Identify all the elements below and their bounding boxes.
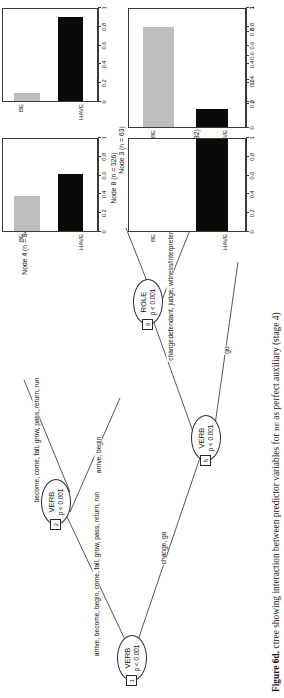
bar-be-node8 [14, 196, 39, 231]
bar-have-node4 [196, 139, 227, 231]
x-axis-node4: 0 0.2 0.4 0.6 0.8 1 [246, 138, 258, 232]
caption-text-1: ctree showing interaction between predic… [271, 431, 281, 648]
axis-label-be-node9: BE [150, 128, 156, 146]
axis-label-have-node8: HAVE [78, 232, 84, 250]
axis-line [98, 138, 99, 232]
bar-be-node7 [14, 93, 39, 101]
axis-label-be-node8: BE [18, 232, 24, 250]
axis-label-have-node4: HAVE [222, 232, 228, 250]
caption-text-2: as perfect auxiliary (stage 4) [271, 312, 281, 422]
xtick-08: 0.8 [249, 153, 255, 161]
xtick-1: 1 [101, 136, 107, 139]
terminal-title-node3: Node 3 (n = 63) [118, 125, 125, 174]
xtick-02: 0.2 [249, 100, 255, 108]
barplot-node8 [2, 138, 98, 232]
edge-label-root-right: change, go [160, 531, 167, 566]
caption-label: Figure 6d. [271, 651, 281, 692]
xtick-04: 0.4 [101, 191, 107, 199]
xtick-02: 0.2 [101, 209, 107, 217]
node-variable: VERB [47, 479, 56, 525]
edge-label-node2-right: become, come, fall, grow, pass, return, … [33, 377, 40, 504]
xtick-1: 1 [101, 6, 107, 9]
ctree-plot: 1 VERB p < 0.001 2 VERB p < 0.001 5 VERB… [0, 0, 268, 698]
xtick-0: 0 [101, 230, 107, 233]
axis-label-have-node7: HAVE [78, 102, 84, 120]
terminal-panel-node4: BE HAVE 0 0.2 0.4 0.6 [128, 138, 258, 250]
terminal-panel-node7: BE HAVE 0 0.2 0.4 0.6 [2, 8, 110, 120]
bar-have-node8 [58, 174, 83, 231]
inner-node-6[interactable]: 6 ROLE p < 0.001 [133, 279, 163, 325]
xtick-04: 0.4 [249, 76, 255, 84]
barplot-node9 [128, 8, 246, 128]
terminal-panel-node8: BE HAVE 0 0.2 0.4 0.6 [2, 138, 110, 250]
node-variable: ROLE [139, 279, 148, 325]
rotated-figure: 1 VERB p < 0.001 2 VERB p < 0.001 5 VERB… [0, 0, 284, 698]
xtick-04: 0.4 [249, 191, 255, 199]
xtick-0: 0 [249, 126, 255, 129]
axis-line [246, 138, 247, 232]
axis-line [246, 8, 247, 128]
bar-be-node9 [143, 27, 174, 127]
inner-node-1[interactable]: 1 VERB p < 0.001 [117, 635, 147, 681]
xtick-06: 0.6 [249, 172, 255, 180]
terminal-panel-node9: BE HAVE 0 0.2 0.4 0.6 0.8 1 [128, 8, 258, 146]
xtick-08: 0.8 [101, 23, 107, 31]
caption-smallcaps: be [271, 422, 281, 431]
xtick-08: 0.8 [101, 153, 107, 161]
figure-caption: Figure 6d. ctree showing interaction bet… [271, 6, 282, 692]
barplot-node4 [128, 138, 246, 232]
xtick-06: 0.6 [101, 172, 107, 180]
figure-page: 1 VERB p < 0.001 2 VERB p < 0.001 5 VERB… [0, 0, 284, 698]
axis-label-be-node4: BE [150, 232, 156, 250]
bar-have-node9 [196, 109, 227, 127]
xtick-0: 0 [249, 230, 255, 233]
edge-label-node5-right: go [223, 345, 230, 354]
node-pvalue: p < 0.001 [133, 635, 140, 681]
edge-label-root-left: arrive, become, begin, come, fall, grow,… [93, 491, 100, 658]
node-pvalue: p < 0.001 [207, 415, 214, 461]
x-axis-node9: 0 0.2 0.4 0.6 0.8 1 [246, 8, 258, 128]
bar-have-node7 [58, 17, 83, 101]
xtick-02: 0.2 [249, 209, 255, 217]
node-pvalue: p < 0.001 [149, 279, 156, 325]
inner-node-5[interactable]: 5 VERB p < 0.001 [191, 415, 221, 461]
axis-label-have-node9: HAVE [222, 128, 228, 146]
x-axis-node7: 0 0.2 0.4 0.6 0.8 1 [98, 8, 110, 102]
xtick-0: 0 [101, 100, 107, 103]
xtick-06: 0.6 [101, 42, 107, 50]
edge-label-node5-left: change [167, 338, 174, 362]
node-variable: VERB [123, 635, 132, 681]
xtick-1: 1 [249, 6, 255, 9]
inner-node-2[interactable]: 2 VERB p < 0.001 [41, 479, 71, 525]
xtick-06: 0.6 [249, 52, 255, 60]
xtick-04: 0.4 [101, 61, 107, 69]
terminal-title-node8: Node 8 (n = 326) [110, 151, 117, 204]
edge-label-node2-left: arrive, begin [95, 436, 102, 474]
node-pvalue: p < 0.001 [57, 479, 64, 525]
xtick-02: 0.2 [101, 79, 107, 87]
axis-line [98, 8, 99, 102]
barplot-node7 [2, 8, 98, 102]
axis-label-be-node7: BE [18, 102, 24, 120]
node-variable: VERB [197, 415, 206, 461]
x-axis-node8: 0 0.2 0.4 0.6 0.8 1 [98, 138, 110, 232]
xtick-08: 0.8 [249, 28, 255, 36]
